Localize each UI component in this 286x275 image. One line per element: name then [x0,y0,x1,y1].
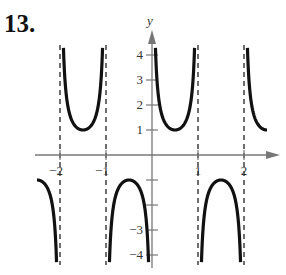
curve-branch [37,180,57,262]
curve-branch [155,48,194,130]
x-axis-arrow-icon [266,151,280,159]
x-tick-label: 2 [241,163,248,178]
csc-graph: y−2−112−4−31234 [0,0,286,275]
curve-branch [63,48,102,130]
x-tick-label: −1 [95,163,109,178]
y-tick-label: −4 [129,247,143,262]
y-tick-label: 3 [137,72,144,87]
y-tick-label: 1 [137,122,144,137]
curve-branch [201,180,240,262]
y-axis-label: y [145,13,153,28]
y-tick-label: −3 [129,222,143,237]
x-tick-label: −2 [49,163,63,178]
y-axis-arrow-icon [148,30,156,44]
y-tick-label: 2 [137,97,144,112]
curve-branch [247,48,267,130]
y-tick-label: 4 [137,47,144,62]
x-tick-label: 1 [195,163,202,178]
